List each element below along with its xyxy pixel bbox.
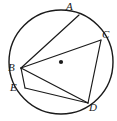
- chord-B-E: [21, 68, 25, 88]
- chord-B-D: [21, 68, 88, 103]
- point-label-e: E: [10, 82, 17, 93]
- geometry-canvas: [0, 0, 117, 121]
- point-label-d: D: [89, 102, 97, 113]
- point-label-c: C: [102, 29, 109, 40]
- chord-E-D: [25, 88, 88, 103]
- point-label-b: B: [8, 62, 15, 73]
- chord-B-A: [21, 15, 79, 68]
- point-label-a: A: [66, 1, 73, 12]
- center-point-dot: [59, 60, 63, 64]
- chord-C-D: [88, 40, 101, 103]
- circle-geometry-figure: A B C D E: [0, 0, 117, 121]
- chord-group: [21, 15, 101, 103]
